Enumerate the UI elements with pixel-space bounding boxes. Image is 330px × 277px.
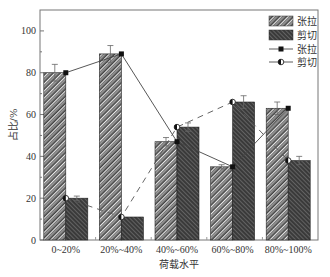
bar-shear	[288, 161, 310, 240]
y-tick-label: 80	[26, 67, 36, 78]
marker-square	[63, 70, 68, 75]
legend-swatch-tension-bar	[269, 16, 293, 26]
bar-tension	[211, 167, 233, 240]
bar-tension	[99, 54, 121, 240]
bar-shear	[177, 127, 199, 240]
legend-label-tension-line: 张拉	[297, 43, 317, 55]
marker-square	[230, 164, 235, 169]
bar-line-chart: 020406080100 0~20%20%~40%40%~60%60%~80%8…	[0, 0, 330, 277]
legend-swatch-shear-bar	[269, 30, 293, 40]
marker-square	[119, 51, 124, 56]
legend: 张拉 剪切 张拉 剪切	[269, 15, 317, 68]
legend-label-shear-bar: 剪切	[297, 29, 317, 41]
x-axis-title: 荷载水平	[159, 259, 199, 270]
x-tick-label: 80%~100%	[265, 244, 312, 255]
y-tick-label: 40	[26, 151, 36, 162]
bar-tension	[155, 142, 177, 240]
legend-label-shear-line: 剪切	[297, 56, 317, 68]
y-tick-label: 20	[26, 193, 36, 204]
y-axis: 020406080100	[21, 25, 44, 245]
bar-shear	[233, 102, 255, 240]
bar-tension	[44, 73, 66, 240]
bar-shear	[121, 217, 143, 240]
marker-square	[175, 139, 180, 144]
x-tick-label: 0~20%	[51, 244, 80, 255]
bar-shear	[66, 198, 88, 240]
x-tick-label: 40%~60%	[156, 244, 198, 255]
y-tick-label: 100	[21, 25, 36, 36]
x-tick-label: 20%~40%	[100, 244, 142, 255]
y-axis-title: 占比/%	[7, 109, 19, 142]
legend-marker-square	[279, 47, 284, 52]
x-tick-label: 60%~80%	[212, 244, 254, 255]
y-tick-label: 0	[31, 235, 36, 246]
y-tick-label: 60	[26, 109, 36, 120]
marker-square	[286, 106, 291, 111]
legend-label-tension-bar: 张拉	[297, 15, 317, 27]
